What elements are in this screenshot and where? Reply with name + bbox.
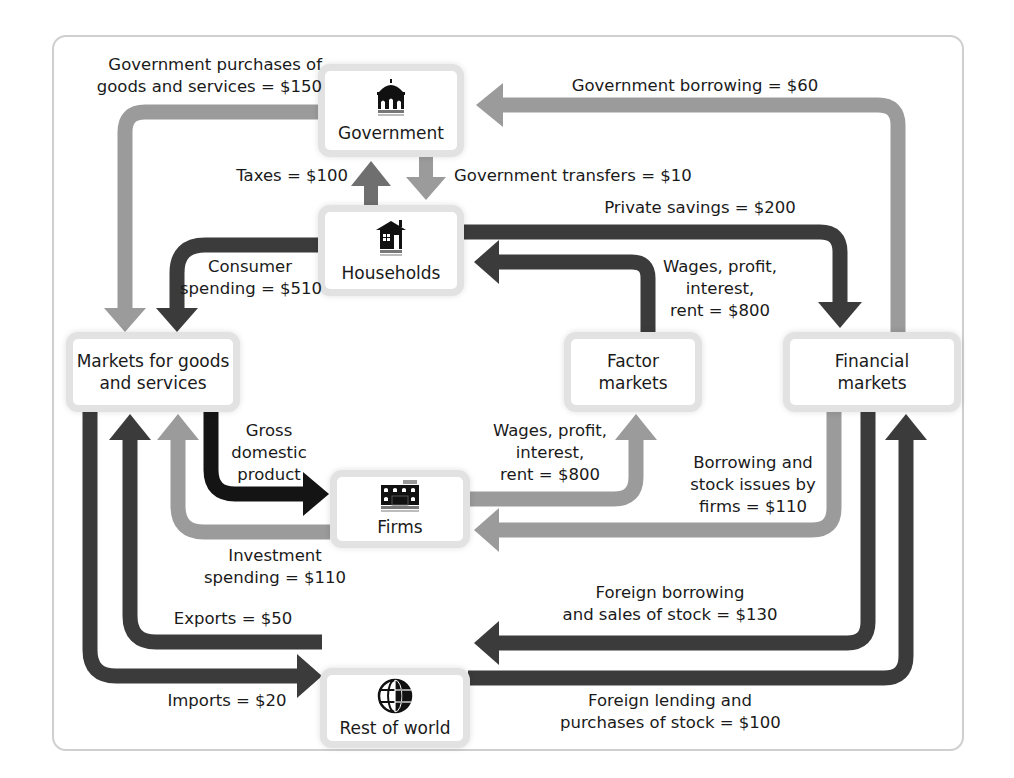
label-wages-from-firms: Wages, profit, interest, rent = $800 [488, 420, 612, 486]
globe-icon [376, 677, 414, 715]
firms-node: Firms [330, 470, 470, 548]
markets-goods-node: Markets for goods and services [66, 332, 240, 412]
label-government-purchases: Government purchases of goods and servic… [60, 54, 322, 98]
label-foreign-lending: Foreign lending and purchases of stock =… [560, 690, 780, 734]
label-government-transfers: Government transfers = $10 [454, 165, 694, 187]
government-building-icon [371, 78, 411, 120]
arrow-government-transfers [406, 157, 446, 200]
arrow-wages-to-households [474, 240, 648, 332]
factor-markets-label-2: markets [598, 372, 667, 394]
label-wages-to-households: Wages, profit, interest, rent = $800 [660, 256, 780, 322]
label-investment-spending: Investment spending = $110 [200, 545, 350, 589]
house-icon [371, 218, 411, 260]
financial-markets-node: Financial markets [783, 332, 961, 412]
label-taxes: Taxes = $100 [220, 165, 348, 187]
arrow-taxes [351, 161, 391, 205]
financial-markets-label-2: markets [837, 372, 906, 394]
label-imports: Imports = $20 [162, 690, 292, 712]
government-label: Government [338, 122, 444, 144]
label-private-savings: Private savings = $200 [590, 197, 810, 219]
label-gdp: Gross domestic product [224, 420, 314, 486]
factor-markets-node: Factor markets [564, 332, 702, 412]
label-exports: Exports = $50 [168, 608, 298, 630]
label-consumer-spending: Consumer spending = $510 [180, 256, 320, 300]
firms-label: Firms [377, 516, 422, 538]
rest-of-world-node: Rest of world [320, 668, 470, 748]
markets-goods-label-2: and services [99, 372, 206, 394]
factory-building-icon [375, 480, 425, 514]
rest-of-world-label: Rest of world [339, 717, 450, 739]
households-label: Households [342, 262, 441, 284]
label-firm-borrowing: Borrowing and stock issues by firms = $1… [688, 452, 818, 518]
households-node: Households [318, 205, 464, 296]
markets-goods-label-1: Markets for goods [77, 350, 230, 372]
label-foreign-borrowing: Foreign borrowing and sales of stock = $… [560, 582, 780, 626]
financial-markets-label-1: Financial [835, 350, 909, 372]
government-node: Government [318, 64, 464, 157]
factor-markets-label-1: Factor [607, 350, 659, 372]
label-government-borrowing: Government borrowing = $60 [560, 75, 830, 97]
